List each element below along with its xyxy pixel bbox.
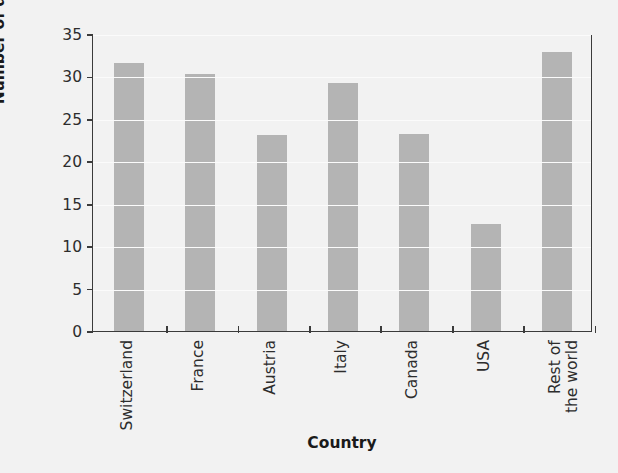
bars-layer (93, 35, 591, 331)
x-axis-tick-mark (452, 326, 454, 333)
bar[interactable] (185, 74, 215, 331)
y-axis-tick-mark (87, 161, 93, 163)
gridline (93, 162, 591, 163)
y-axis-tick-mark (87, 204, 93, 206)
x-axis-tick-mark (523, 326, 525, 333)
y-axis-tick-label: 20 (62, 153, 82, 171)
x-axis-tick-label: Italy (333, 340, 350, 374)
x-axis-tick-mark (238, 326, 240, 333)
y-axis-tick-label: 5 (72, 281, 82, 299)
x-axis-title: Country (92, 434, 592, 452)
y-axis-tick-label: 10 (62, 238, 82, 256)
y-axis-tick-label: 15 (62, 196, 82, 214)
chart-figure: Number of deaths 05101520253035 Country … (0, 0, 618, 473)
bar[interactable] (257, 135, 287, 331)
bar[interactable] (471, 224, 501, 331)
y-axis-tick-labels: 05101520253035 (30, 0, 82, 473)
x-axis-tick-label: USA (476, 340, 493, 372)
y-axis-tick-label: 25 (62, 111, 82, 129)
bar[interactable] (114, 63, 144, 331)
x-axis-tick-mark (380, 326, 382, 333)
x-axis-tick-mark (309, 326, 311, 333)
y-axis-tick-mark (87, 331, 93, 333)
y-axis-tick-label: 30 (62, 68, 82, 86)
y-axis-title: Number of deaths (0, 0, 8, 104)
gridline (93, 35, 591, 36)
gridline (93, 120, 591, 121)
x-axis-tick-label: Canada (404, 340, 421, 399)
y-axis-tick-mark (87, 77, 93, 79)
x-axis-tick-mark (166, 326, 168, 333)
y-axis-tick-mark (87, 289, 93, 291)
gridline (93, 77, 591, 78)
x-axis-tick-mark (595, 326, 597, 333)
y-axis-tick-mark (87, 246, 93, 248)
y-axis-tick-mark (87, 119, 93, 121)
gridline (93, 205, 591, 206)
y-axis-tick-mark (87, 34, 93, 36)
gridline (93, 247, 591, 248)
x-axis-tick-label: Switzerland (119, 340, 136, 430)
gridline (93, 290, 591, 291)
x-axis-tick-label: Austria (262, 340, 279, 395)
y-axis-tick-label: 0 (72, 323, 82, 341)
x-axis-tick-label: France (190, 340, 207, 392)
y-axis-tick-label: 35 (62, 26, 82, 44)
bar[interactable] (399, 134, 429, 331)
x-axis-tick-label: Rest of the world (547, 340, 582, 413)
plot-area (92, 35, 592, 332)
